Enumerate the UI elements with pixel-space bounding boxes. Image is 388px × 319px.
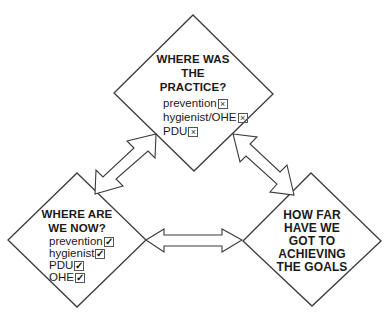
node-past-items: prevention × hygienist/OHE × PDU × bbox=[163, 97, 248, 139]
list-item: hygienist/OHE × bbox=[163, 111, 248, 125]
double-arrow-past-progress-icon bbox=[233, 134, 294, 195]
node-present-title: WHERE ARE WE NOW? bbox=[37, 209, 117, 237]
list-item: PDU × bbox=[163, 125, 248, 139]
check-box-icon: ✓ bbox=[104, 237, 114, 247]
cross-box-icon: × bbox=[238, 113, 248, 123]
check-box-icon: ✓ bbox=[75, 273, 85, 283]
list-item: PDU ✓ bbox=[49, 260, 114, 272]
item-label: hygienist bbox=[49, 248, 94, 260]
item-label: OHE bbox=[49, 272, 74, 284]
title-line: THE bbox=[153, 68, 233, 82]
item-label: PDU bbox=[163, 126, 187, 138]
list-item: hygienist ✓ bbox=[49, 248, 114, 260]
item-label: prevention bbox=[163, 98, 217, 110]
title-line: WHERE WAS bbox=[153, 54, 233, 68]
list-item: OHE ✓ bbox=[49, 272, 114, 284]
node-past-title: WHERE WAS THE PRACTICE? bbox=[153, 54, 233, 96]
double-arrow-past-present-icon bbox=[95, 134, 156, 194]
item-label: PDU bbox=[49, 260, 73, 272]
node-progress-title: HOW FAR HAVE WE GOT TO ACHIEVING THE GOA… bbox=[271, 209, 353, 274]
cycle-diagram: WHERE WAS THE PRACTICE? prevention × hyg… bbox=[0, 0, 388, 319]
item-label: prevention bbox=[49, 236, 103, 248]
title-line: THE GOALS bbox=[271, 261, 353, 274]
item-label: hygienist/OHE bbox=[163, 112, 237, 124]
title-line: PRACTICE? bbox=[153, 82, 233, 96]
cross-box-icon: × bbox=[218, 99, 228, 109]
list-item: prevention ✓ bbox=[49, 236, 114, 248]
double-arrow-present-progress-icon bbox=[146, 229, 242, 252]
check-box-icon: ✓ bbox=[95, 249, 105, 259]
check-box-icon: ✓ bbox=[74, 261, 84, 271]
cross-box-icon: × bbox=[188, 127, 198, 137]
node-present-items: prevention ✓ hygienist ✓ PDU ✓ OHE ✓ bbox=[49, 236, 114, 284]
list-item: prevention × bbox=[163, 97, 248, 111]
title-line: WHERE ARE bbox=[37, 209, 117, 223]
